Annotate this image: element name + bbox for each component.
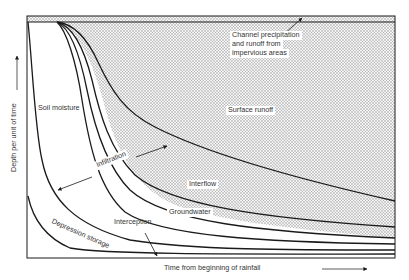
surface-runoff-label: Surface runoff	[226, 106, 275, 115]
runoff-shaded-region	[57, 22, 395, 238]
infiltration-arrow-left	[58, 177, 92, 190]
hydrograph-diagram	[0, 0, 409, 280]
x-axis-label: Time from beginning of rainfall	[164, 264, 260, 273]
interflow-label: Interflow	[187, 180, 218, 189]
soil-moisture-label: Soil moisture	[38, 104, 80, 113]
interception-label: Interception	[114, 218, 152, 227]
channel-label-line3: impervious areas	[230, 49, 289, 58]
channel-strip	[27, 16, 395, 22]
groundwater-label: Groundwater	[167, 208, 213, 217]
y-axis-label: Depth per unit of time	[9, 103, 18, 172]
